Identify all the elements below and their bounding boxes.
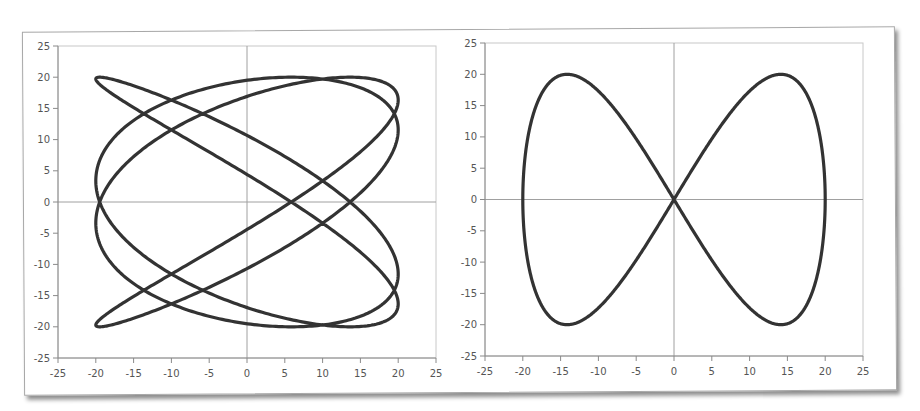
y-tick-label: 25 <box>464 38 477 49</box>
y-tick-label: -10 <box>461 257 477 268</box>
x-tick-label: -10 <box>163 368 179 379</box>
x-tick-label: -20 <box>515 366 531 377</box>
x-tick-label: 25 <box>857 366 870 377</box>
y-tick-label: -15 <box>34 290 50 301</box>
x-tick-label: 20 <box>819 366 832 377</box>
x-tick-label: -5 <box>204 368 214 379</box>
x-tick-label: 15 <box>354 368 367 379</box>
y-tick-label: 15 <box>37 103 50 114</box>
x-tick-label: 15 <box>781 366 794 377</box>
y-tick-label: -25 <box>34 353 50 364</box>
y-tick-label: 15 <box>464 100 477 111</box>
x-tick-label: 0 <box>244 368 250 379</box>
x-tick-label: -20 <box>88 368 104 379</box>
x-tick-label: 0 <box>671 366 677 377</box>
y-tick-label: 0 <box>471 194 477 205</box>
y-tick-label: -25 <box>461 351 477 362</box>
x-tick-label: -15 <box>125 368 141 379</box>
x-tick-label: 10 <box>743 366 756 377</box>
y-tick-label: -5 <box>467 225 477 236</box>
y-tick-label: -20 <box>34 321 50 332</box>
y-tick-label: -15 <box>461 288 477 299</box>
x-tick-label: 10 <box>316 368 329 379</box>
y-tick-label: -20 <box>461 319 477 330</box>
x-tick-label: -25 <box>50 368 66 379</box>
y-tick-label: 10 <box>464 131 477 142</box>
x-tick-label: 5 <box>282 368 288 379</box>
x-tick-label: -10 <box>590 366 606 377</box>
y-tick-label: -10 <box>34 259 50 270</box>
x-tick-label: 5 <box>709 366 715 377</box>
left-chart: -25-20-15-10-505101520252520151050-5-10-… <box>34 41 443 380</box>
x-tick-label: 20 <box>392 368 405 379</box>
y-tick-label: 5 <box>471 163 477 174</box>
y-tick-label: 10 <box>37 134 50 145</box>
x-tick-label: -25 <box>477 366 493 377</box>
y-tick-label: -5 <box>40 228 50 239</box>
y-tick-label: 20 <box>464 69 477 80</box>
y-tick-label: 25 <box>37 41 50 52</box>
x-tick-label: 25 <box>430 368 443 379</box>
x-tick-label: -15 <box>552 366 568 377</box>
y-tick-label: 20 <box>37 72 50 83</box>
y-tick-label: 0 <box>44 197 50 208</box>
x-tick-label: -5 <box>631 366 641 377</box>
charts-canvas: -25-20-15-10-505101520252520151050-5-10-… <box>0 0 920 411</box>
y-tick-label: 5 <box>44 165 50 176</box>
right-chart: -25-20-15-10-505101520252520151050-5-10-… <box>461 38 870 378</box>
